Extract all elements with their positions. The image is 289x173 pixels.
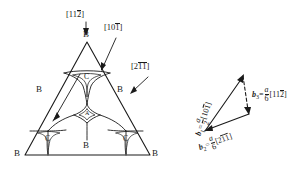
site-bottom-right: B — [152, 149, 158, 158]
site-bottom-mid: B — [83, 141, 89, 150]
site-bottom-left: B — [14, 149, 20, 158]
label-101: [101] — [104, 23, 122, 32]
vector-b3-label: b3=a6[112] — [252, 86, 287, 104]
fault-upper: C — [84, 73, 89, 81]
fault-lower-right: C — [123, 135, 128, 143]
label-112: [112] — [66, 10, 84, 19]
fraction-a-over-6: a6 — [265, 86, 269, 104]
arrow-b3 — [243, 76, 251, 115]
label-211: [211] — [131, 62, 149, 71]
left-panel-group — [25, 22, 150, 155]
pointer-211 — [130, 77, 148, 94]
figure-canvas — [0, 0, 289, 173]
site-right-mid: B — [117, 85, 123, 94]
site-left-mid: B — [36, 85, 42, 94]
outer-triangle — [25, 42, 150, 155]
fault-lower-left: C — [45, 135, 50, 143]
pointer-101 — [101, 38, 116, 71]
fault-center: A — [85, 110, 89, 116]
site-apex-top: B — [83, 30, 89, 39]
